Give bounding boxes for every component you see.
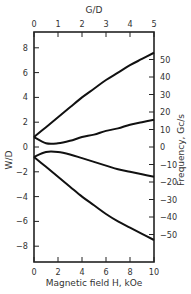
y-tick-label: 8 (23, 43, 28, 53)
y2-tick-label: 20 (160, 107, 170, 117)
y2-tick-label: −10 (160, 160, 177, 170)
axis-ticks: 024681001234586420−2−4−6−850403020100−10… (16, 19, 177, 277)
y2-tick-label: −20 (160, 177, 177, 187)
plot-border (34, 32, 154, 262)
x2-tick-label: 2 (79, 19, 84, 29)
data-curves (34, 53, 154, 240)
y2-tick-label: 40 (160, 72, 170, 82)
chart: 024681001234586420−2−4−6−850403020100−10… (0, 0, 191, 294)
y2-tick-label: 50 (160, 55, 170, 65)
y2-tick-label: 0 (160, 142, 165, 152)
x2-tick-label: 3 (103, 19, 108, 29)
y-tick-label: 6 (23, 68, 28, 78)
x-axis-title: Magnetic field H, kOe (46, 278, 143, 288)
x-tick-label: 6 (103, 267, 108, 277)
y-tick-label: −8 (16, 241, 28, 251)
curve-0 (34, 53, 154, 137)
y2-axis-title: Frequency, Gc/s (176, 114, 186, 186)
x-tick-label: 4 (79, 267, 84, 277)
x2-tick-label: 5 (151, 19, 156, 29)
y-tick-label: −2 (16, 167, 28, 177)
y-tick-label: −4 (16, 192, 28, 202)
y2-tick-label: −30 (160, 195, 177, 205)
y-axis-title: W/D (4, 151, 14, 170)
plot-frame (34, 32, 154, 262)
x-tick-label: 0 (31, 267, 36, 277)
y-tick-label: 0 (23, 142, 28, 152)
x-tick-label: 8 (127, 267, 132, 277)
y-tick-label: 2 (23, 117, 28, 127)
x2-tick-label: 0 (31, 19, 36, 29)
x-tick-label: 10 (149, 267, 159, 277)
x2-tick-label: 4 (127, 19, 132, 29)
x-tick-label: 2 (55, 267, 60, 277)
y2-tick-label: 30 (160, 90, 170, 100)
curve-3 (34, 157, 154, 240)
y2-tick-label: 10 (160, 125, 170, 135)
x2-tick-label: 1 (55, 19, 60, 29)
y2-tick-label: −50 (160, 230, 177, 240)
y-tick-label: 4 (23, 92, 28, 102)
y2-tick-label: −40 (160, 212, 177, 222)
y-tick-label: −6 (16, 216, 28, 226)
x2-axis-title: G/D (86, 5, 103, 15)
